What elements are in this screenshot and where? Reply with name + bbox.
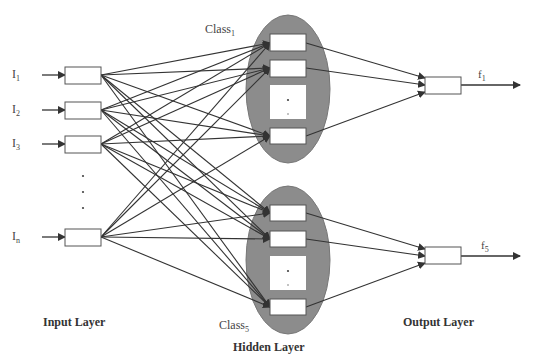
input-hidden-connections (101, 43, 270, 307)
input-arrows (42, 75, 65, 237)
dot-icon (287, 270, 289, 272)
dot-icon (287, 99, 289, 101)
input-label-1: I1 (12, 67, 20, 83)
hidden-neurons-class5 (270, 205, 306, 315)
hidden-neuron-5-n (270, 299, 306, 315)
class1-label: Class1 (205, 22, 235, 38)
hidden-layer-title: Hidden Layer (233, 340, 305, 355)
output-neurons (425, 77, 461, 264)
hidden-neurons-class1 (270, 34, 306, 144)
output-label-1: f1 (478, 68, 486, 83)
output-layer-title: Output Layer (403, 315, 474, 330)
dot-icon (287, 284, 289, 286)
hidden-neuron-5-2 (270, 231, 306, 247)
hidden-neuron-5-1 (270, 205, 306, 221)
input-neuron-3 (65, 136, 101, 153)
dot-icon (287, 113, 289, 115)
input-label-n: In (12, 229, 20, 245)
input-layer-title: Input Layer (43, 315, 105, 330)
output-arrows (461, 85, 520, 256)
input-ellipsis-icon (82, 175, 84, 209)
output-neuron-1 (425, 77, 461, 94)
hidden-neuron-1-n (270, 128, 306, 144)
input-label-2: I2 (12, 102, 20, 118)
input-neuron-n (65, 229, 101, 246)
input-neurons (65, 67, 101, 246)
input-neuron-1 (65, 67, 101, 84)
output-label-5: f5 (481, 239, 489, 254)
hidden-neuron-1-2 (270, 60, 306, 77)
input-label-3: I3 (12, 136, 20, 152)
class5-label: Class5 (219, 318, 249, 334)
network-diagram (0, 0, 535, 358)
output-neuron-5 (425, 247, 461, 264)
input-neuron-2 (65, 102, 101, 119)
hidden-neuron-1-1 (270, 34, 306, 51)
